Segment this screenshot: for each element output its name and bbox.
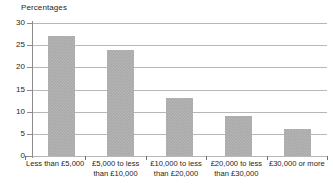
x-axis-tick xyxy=(327,156,328,160)
y-axis-tick-label: 5 xyxy=(1,130,25,138)
y-axis-tick-label: 10 xyxy=(1,108,25,116)
x-axis-tick xyxy=(206,156,207,160)
y-axis-tick xyxy=(27,156,33,157)
gridline xyxy=(32,156,327,157)
x-axis-label-line: £5,000 to less xyxy=(85,159,145,169)
x-axis-label-line: than £20,000 xyxy=(146,169,206,179)
bar-chart: Percentages 302520151050 Less than £5,00… xyxy=(0,0,333,189)
y-axis-tick-label: 15 xyxy=(1,86,25,94)
y-axis-tick xyxy=(27,67,33,68)
bar xyxy=(48,36,75,156)
x-axis-tick xyxy=(267,156,268,160)
y-axis-tick-label: 0 xyxy=(1,152,25,160)
y-axis-tick xyxy=(27,45,33,46)
bar xyxy=(107,50,134,156)
x-axis-labels: Less than £5,000£5,000 to lessthan £10,0… xyxy=(25,159,327,189)
y-axis-tick xyxy=(27,112,33,113)
y-axis-tick xyxy=(27,90,33,91)
x-axis-label-line: £20,000 to less xyxy=(206,159,266,169)
gridline xyxy=(32,90,327,91)
y-axis-tick xyxy=(27,134,33,135)
y-axis-tick-label: 20 xyxy=(1,63,25,71)
bar xyxy=(284,129,311,156)
chart-title: Percentages xyxy=(21,3,67,13)
x-axis-tick xyxy=(85,156,86,160)
y-axis-tick-label: 30 xyxy=(1,19,25,27)
x-axis-category-label: Less than £5,000 xyxy=(25,159,85,169)
gridline xyxy=(32,45,327,46)
x-axis-tick xyxy=(146,156,147,160)
x-axis-label-line: £30,000 or more xyxy=(267,159,327,169)
gridline xyxy=(32,67,327,68)
x-axis-label-line: than £10,000 xyxy=(85,169,145,179)
x-axis-tick xyxy=(25,156,26,160)
gridline xyxy=(32,23,327,24)
y-axis-tick xyxy=(27,23,33,24)
y-axis-labels: 302520151050 xyxy=(0,0,25,189)
x-axis-category-label: £10,000 to lessthan £20,000 xyxy=(146,159,206,179)
x-axis-category-label: £20,000 to lessthan £30,000 xyxy=(206,159,266,179)
y-axis-tick-label: 25 xyxy=(1,41,25,49)
x-axis-label-line: £10,000 to less xyxy=(146,159,206,169)
x-axis-label-line: than £30,000 xyxy=(206,169,266,179)
bar xyxy=(225,116,252,156)
x-axis-category-label: £5,000 to lessthan £10,000 xyxy=(85,159,145,179)
x-axis-label-line: Less than £5,000 xyxy=(25,159,85,169)
plot-area xyxy=(32,23,327,156)
x-axis-category-label: £30,000 or more xyxy=(267,159,327,169)
bar xyxy=(166,98,193,156)
